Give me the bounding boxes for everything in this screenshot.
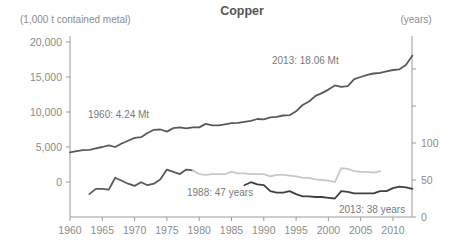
x-tick-label: 1985 (220, 224, 244, 236)
chart-canvas: Copper (1,000 t contained metal) (years)… (0, 0, 458, 252)
left-tick-label: 15,000 (30, 71, 62, 83)
right-axis-unit-label: (years) (400, 14, 431, 25)
x-tick-label: 2000 (317, 224, 341, 236)
x-tick-label: 1990 (252, 224, 276, 236)
annotation-2013-production: 2013: 18.06 Mt (272, 55, 339, 66)
data-lines (70, 56, 412, 199)
series-line-2 (193, 168, 380, 182)
left-tick-label: 0 (56, 176, 62, 188)
left-tick-label: 10,000 (30, 106, 62, 118)
x-tick-label: 1970 (123, 224, 147, 236)
left-tick-label: 20,000 (30, 36, 62, 48)
series-line-1 (89, 170, 192, 195)
annotation-1960-production: 1960: 4.24 Mt (88, 109, 149, 120)
series-line-3 (244, 182, 412, 198)
x-tick-label: 1975 (155, 224, 179, 236)
x-tick-label: 1980 (188, 224, 212, 236)
right-tick-label: 0 (421, 211, 427, 223)
right-tick-label: 100 (421, 137, 439, 149)
x-tick-label: 1960 (58, 224, 82, 236)
left-axis-unit-label: (1,000 t contained metal) (20, 14, 131, 25)
x-tick-label: 1965 (91, 224, 115, 236)
x-tick-label: 2010 (381, 224, 405, 236)
chart-title: Copper (220, 4, 264, 18)
annotation-1988-years: 1988: 47 years (187, 187, 253, 198)
right-tick-label: 50 (421, 174, 433, 186)
left-tick-label: 5,000 (36, 141, 62, 153)
x-tick-label: 2005 (349, 224, 373, 236)
series-line-0 (70, 56, 412, 153)
annotation-2013-years: 2013: 38 years (339, 204, 405, 215)
copper-chart: Copper (1,000 t contained metal) (years)… (0, 0, 458, 252)
x-tick-label: 1995 (284, 224, 308, 236)
